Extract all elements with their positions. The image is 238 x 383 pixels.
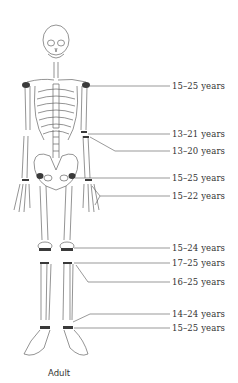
label-hip: 15–25 years xyxy=(172,173,225,183)
label-shoulder: 15–25 years xyxy=(172,81,225,91)
label-elbow-humerus: 13–21 years xyxy=(172,129,225,139)
skull xyxy=(43,25,69,55)
label-ankle-fibula: 15–25 years xyxy=(172,323,225,333)
label-knee-tibia: 17–25 years xyxy=(172,258,225,268)
label-knee-femur: 15–24 years xyxy=(172,243,225,253)
label-knee-fibula: 16–25 years xyxy=(172,277,225,287)
skeleton-diagram: 15–25 years 13–21 years 13–20 years 15–2… xyxy=(0,0,238,383)
label-wrist: 15–22 years xyxy=(172,191,225,201)
leader-lines xyxy=(73,86,170,328)
label-ankle-tibia: 14–24 years xyxy=(172,309,225,319)
label-elbow-radius: 13–20 years xyxy=(172,146,225,156)
caption-adult: Adult xyxy=(48,368,70,378)
